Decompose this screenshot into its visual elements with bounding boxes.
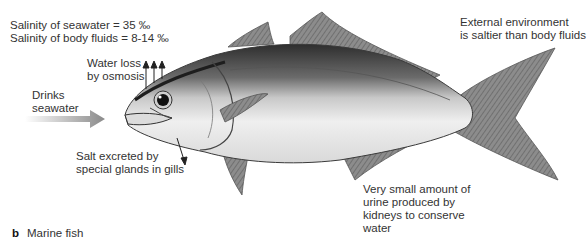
- label-urine-4: water: [363, 222, 391, 235]
- label-external-2: is saltier than body fluids: [460, 29, 586, 42]
- dorsal-fin-1: [228, 22, 274, 47]
- fish-body: [125, 44, 473, 163]
- caption-text: Marine fish: [27, 227, 83, 239]
- label-drinks-1: Drinks: [32, 89, 65, 102]
- label-salinity-seawater: Salinity of seawater = 35 ‰: [10, 19, 150, 32]
- label-urine-3: kidneys to conserve: [363, 209, 465, 222]
- label-water-loss-1: Water loss: [87, 57, 141, 70]
- label-drinks-2: seawater: [32, 102, 79, 115]
- label-urine-1: Very small amount of: [363, 183, 470, 196]
- figure-caption: bMarine fish: [12, 227, 83, 239]
- label-salt-1: Salt excreted by: [76, 150, 158, 163]
- label-salinity-body: Salinity of body fluids = 8-14 ‰: [10, 32, 169, 45]
- label-external-1: External environment: [460, 16, 569, 29]
- label-water-loss-2: by osmosis: [87, 70, 145, 83]
- label-urine-2: urine produced by: [363, 196, 455, 209]
- caption-letter: b: [12, 227, 19, 239]
- label-salt-2: special glands in gills: [76, 163, 184, 176]
